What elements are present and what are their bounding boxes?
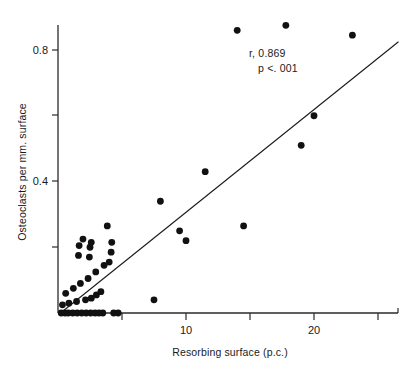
data-point — [75, 252, 82, 259]
data-point — [349, 32, 356, 39]
data-point — [70, 285, 77, 292]
data-point — [234, 27, 241, 34]
data-point — [97, 288, 104, 295]
data-point — [80, 236, 87, 243]
x-tick-label-10: 10 — [180, 324, 192, 336]
data-point — [106, 259, 113, 266]
data-point — [115, 310, 122, 317]
data-point — [183, 237, 190, 244]
y-tick-label-0.8: 0.8 — [33, 44, 48, 56]
y-tick-label-0.4: 0.4 — [33, 175, 48, 187]
data-point — [73, 298, 80, 305]
data-point — [282, 22, 289, 29]
scatter-plot-figure: 0.8 0.4 10 20 Osteoclasts per mm. surfac… — [0, 0, 413, 370]
data-point — [176, 227, 183, 234]
data-point — [202, 168, 209, 175]
y-axis-title: Osteoclasts per mm. surface — [16, 103, 28, 241]
data-point — [108, 249, 115, 256]
data-point — [65, 300, 72, 307]
data-point — [86, 254, 93, 261]
correlation-annotation: r, 0.869 — [249, 47, 286, 59]
data-point — [240, 222, 247, 229]
data-point — [99, 310, 106, 317]
data-point — [104, 222, 111, 229]
data-point — [88, 239, 95, 246]
data-point — [85, 275, 92, 282]
data-point — [82, 296, 89, 303]
data-point — [157, 198, 164, 205]
data-point — [151, 296, 158, 303]
plot-canvas: 0.8 0.4 10 20 Osteoclasts per mm. surfac… — [0, 0, 413, 370]
data-point — [77, 280, 84, 287]
p-value-annotation: p <. 001 — [258, 62, 298, 74]
data-point — [298, 142, 305, 149]
data-point — [76, 242, 83, 249]
x-tick-label-20: 20 — [308, 324, 320, 336]
regression-line — [61, 42, 399, 313]
y-tick-marks — [52, 50, 58, 247]
x-tick-marks — [122, 308, 398, 320]
data-point — [62, 290, 69, 297]
data-point — [311, 112, 318, 119]
data-point — [92, 269, 99, 276]
data-points-group — [58, 22, 356, 316]
data-point — [108, 239, 115, 246]
data-point — [59, 301, 66, 308]
x-axis-title: Resorbing surface (p.c.) — [172, 346, 288, 358]
